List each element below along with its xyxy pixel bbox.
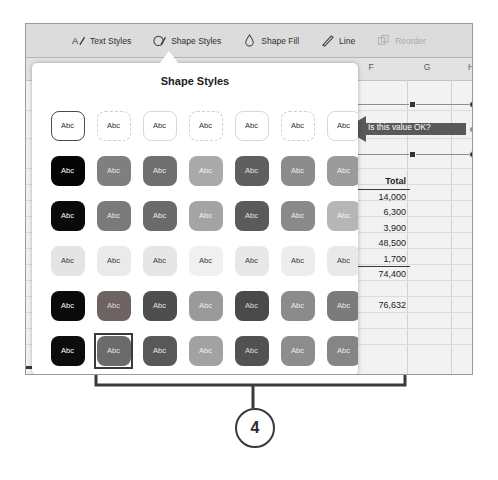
shape-style-swatch[interactable]: Abc [97,111,131,141]
shape-style-swatch-cell[interactable]: Abc [276,148,319,193]
total-cell[interactable]: 76,632 [352,298,410,314]
shape-style-swatch[interactable]: Abc [51,291,85,321]
shape-style-swatch[interactable]: Abc [327,201,359,231]
shape-style-swatch-cell[interactable]: Abc [184,193,227,238]
total-cell[interactable]: 14,000 [352,190,410,206]
shape-style-swatch-cell[interactable]: Abc [322,283,358,328]
shape-style-swatch[interactable]: Abc [235,291,269,321]
shape-style-swatch-cell[interactable]: Abc [276,193,319,238]
shape-style-swatch-cell[interactable]: Abc [230,193,273,238]
shape-style-swatch-cell[interactable]: Abc [46,103,89,148]
shape-style-swatch[interactable]: Abc [327,156,359,186]
resize-handle-middle-right[interactable] [469,126,473,133]
shape-style-swatch[interactable]: Abc [281,111,315,141]
shape-style-swatch-cell[interactable]: Abc [184,238,227,283]
total-cell[interactable]: 1,700 [352,252,410,268]
resize-handle-bottom-center[interactable] [409,151,416,158]
shape-style-swatch-cell[interactable]: Abc [322,238,358,283]
shape-style-swatch[interactable]: Abc [189,156,223,186]
shape-style-swatch[interactable]: Abc [235,336,269,366]
shape-style-swatch-cell[interactable]: Abc [46,238,89,283]
shape-style-swatch-cell[interactable]: Abc [322,148,358,193]
shape-style-swatch[interactable]: Abc [189,336,223,366]
shape-style-swatch-cell[interactable]: Abc [322,103,358,148]
shape-style-grid[interactable]: AbcAbcAbcAbcAbcAbcAbcAbcAbcAbcAbcAbcAbcA… [46,103,358,373]
total-cell[interactable]: 6,300 [352,205,410,221]
shape-style-swatch[interactable]: Abc [51,246,85,276]
shape-style-swatch-cell[interactable]: Abc [276,328,319,373]
shape-style-swatch-cell[interactable]: Abc [92,103,135,148]
shape-style-swatch[interactable]: Abc [97,336,131,366]
shape-style-swatch[interactable]: Abc [97,156,131,186]
shape-style-swatch[interactable]: Abc [189,291,223,321]
shape-style-swatch[interactable]: Abc [327,246,359,276]
shape-style-swatch-cell[interactable]: Abc [92,148,135,193]
shape-style-swatch[interactable]: Abc [143,111,177,141]
shape-style-swatch[interactable]: Abc [143,336,177,366]
shape-style-swatch[interactable]: Abc [51,336,85,366]
shape-style-swatch-cell[interactable]: Abc [230,283,273,328]
shape-style-swatch-cell[interactable]: Abc [276,283,319,328]
total-cell-blank[interactable] [352,283,410,299]
shape-style-swatch[interactable]: Abc [235,246,269,276]
shape-style-swatch[interactable]: Abc [281,156,315,186]
shape-style-swatch[interactable]: Abc [281,201,315,231]
shape-style-swatch[interactable]: Abc [97,291,131,321]
shape-style-swatch-cell[interactable]: Abc [46,283,89,328]
shape-style-swatch-cell[interactable]: Abc [322,193,358,238]
toolbar-item-text-styles[interactable]: A Text Styles [72,34,131,47]
shape-style-swatch-cell[interactable]: Abc [276,103,319,148]
shape-style-swatch[interactable]: Abc [327,111,359,141]
shape-style-swatch-cell[interactable]: Abc [322,328,358,373]
shape-style-swatch-cell[interactable]: Abc [138,328,181,373]
total-cell[interactable]: 3,900 [352,221,410,237]
toolbar-item-shape-fill[interactable]: Shape Fill [243,34,299,47]
total-column-header[interactable]: Total [352,174,410,190]
shape-style-swatch[interactable]: Abc [189,246,223,276]
resize-handle-top-center[interactable] [409,101,416,108]
shape-style-swatch-cell[interactable]: Abc [230,328,273,373]
shape-style-swatch[interactable]: Abc [235,156,269,186]
shape-style-swatch-cell[interactable]: Abc [230,148,273,193]
shape-style-swatch-cell[interactable]: Abc [184,328,227,373]
shape-style-swatch-cell[interactable]: Abc [138,283,181,328]
shape-style-swatch-cell[interactable]: Abc [230,103,273,148]
toolbar-item-shape-styles[interactable]: Shape Styles [153,34,221,47]
shape-style-swatch[interactable]: Abc [143,201,177,231]
toolbar-item-line[interactable]: Line [321,34,355,47]
column-header-f[interactable]: F [358,62,384,72]
shape-style-swatch[interactable]: Abc [189,111,223,141]
shape-style-swatch[interactable]: Abc [143,291,177,321]
shape-style-swatch[interactable]: Abc [235,111,269,141]
toolbar-item-reorder[interactable]: Reorder [377,34,426,47]
shape-style-swatch-cell[interactable]: Abc [138,193,181,238]
shape-style-swatch[interactable]: Abc [143,246,177,276]
total-cell[interactable]: 48,500 [352,236,410,252]
shape-style-swatch-cell[interactable]: Abc [92,328,135,373]
column-header-h[interactable]: H [458,62,473,72]
total-cell[interactable]: 74,400 [352,267,410,283]
shape-style-swatch-cell[interactable]: Abc [276,238,319,283]
shape-style-swatch[interactable]: Abc [51,111,85,141]
shape-style-swatch-cell[interactable]: Abc [46,328,89,373]
shape-style-swatch-cell[interactable]: Abc [92,238,135,283]
shape-style-swatch-cell[interactable]: Abc [230,238,273,283]
shape-style-swatch[interactable]: Abc [97,201,131,231]
shape-style-swatch[interactable]: Abc [235,201,269,231]
shape-style-swatch-cell[interactable]: Abc [46,148,89,193]
column-header-g[interactable]: G [414,62,440,72]
shape-style-swatch-cell[interactable]: Abc [184,148,227,193]
shape-style-swatch[interactable]: Abc [281,246,315,276]
shape-style-swatch-cell[interactable]: Abc [138,238,181,283]
shape-style-swatch[interactable]: Abc [327,336,359,366]
resize-handle-top-right[interactable] [469,101,473,108]
shape-style-swatch-cell[interactable]: Abc [138,148,181,193]
shape-style-swatch[interactable]: Abc [327,291,359,321]
shape-style-swatch-cell[interactable]: Abc [46,193,89,238]
shape-style-swatch[interactable]: Abc [97,246,131,276]
shape-style-swatch[interactable]: Abc [51,201,85,231]
shape-style-swatch-cell[interactable]: Abc [138,103,181,148]
shape-style-swatch-cell[interactable]: Abc [92,193,135,238]
shape-style-swatch-cell[interactable]: Abc [184,103,227,148]
resize-handle-bottom-right[interactable] [469,151,473,158]
